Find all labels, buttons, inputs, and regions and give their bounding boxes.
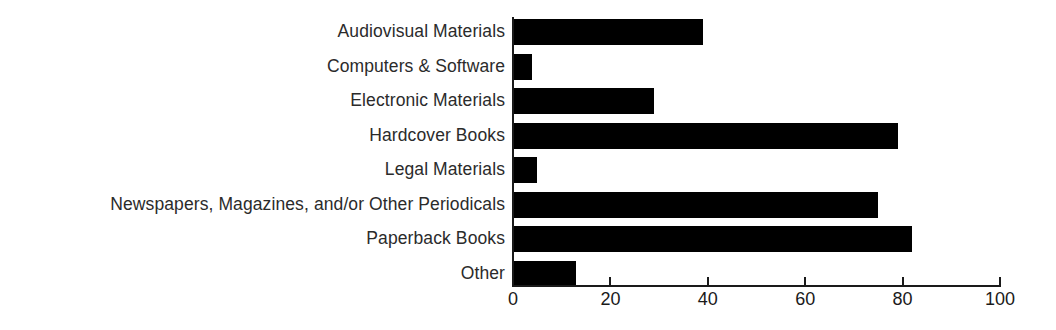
x-axis-tick-label: 0 <box>508 290 518 308</box>
category-label: Electronic Materials <box>0 92 505 110</box>
bar <box>513 54 532 80</box>
category-label: Legal Materials <box>0 161 505 179</box>
plot-area <box>513 0 1000 285</box>
bar-chart: Audiovisual MaterialsComputers & Softwar… <box>0 0 1056 330</box>
category-label: Audiovisual Materials <box>0 23 505 41</box>
x-axis-tick <box>902 277 904 286</box>
bar <box>513 226 912 252</box>
category-label: Computers & Software <box>0 58 505 76</box>
x-axis-tick-label: 40 <box>698 290 718 308</box>
x-axis-tick <box>707 277 709 286</box>
bar <box>513 157 537 183</box>
x-axis-tick <box>609 277 611 286</box>
category-label: Paperback Books <box>0 230 505 248</box>
bar <box>513 19 703 45</box>
category-label: Other <box>0 265 505 283</box>
x-axis-line <box>512 285 1001 287</box>
category-axis-labels: Audiovisual MaterialsComputers & Softwar… <box>0 0 505 285</box>
x-axis-tick <box>804 277 806 286</box>
x-axis-tick <box>512 277 514 286</box>
y-axis-line <box>512 17 514 287</box>
category-label: Hardcover Books <box>0 127 505 145</box>
x-axis-tick-label: 60 <box>795 290 815 308</box>
bar <box>513 261 576 287</box>
x-axis-tick-label: 100 <box>985 290 1015 308</box>
category-label: Newspapers, Magazines, and/or Other Peri… <box>0 196 505 214</box>
x-axis-tick <box>999 277 1001 286</box>
x-axis-tick-label: 20 <box>600 290 620 308</box>
bar <box>513 88 654 114</box>
bar <box>513 123 898 149</box>
bar <box>513 192 878 218</box>
x-axis-tick-label: 80 <box>893 290 913 308</box>
